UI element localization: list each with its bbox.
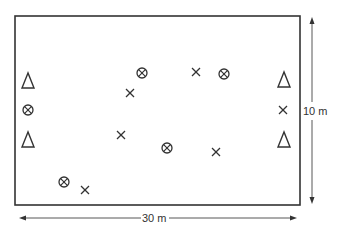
field-diagram: 10 m 30 m	[0, 0, 339, 234]
width-dimension: 30 m	[19, 212, 297, 224]
cross-icon	[126, 89, 134, 97]
playing-field	[15, 16, 300, 205]
circled-cross-icon	[162, 143, 172, 153]
cross-icon	[117, 131, 125, 139]
cross-icon	[81, 186, 89, 194]
arrowhead-down-icon	[310, 197, 315, 204]
cross-icon	[279, 106, 287, 114]
arrowhead-up-icon	[310, 17, 315, 24]
height-label: 10 m	[303, 105, 327, 117]
width-label: 30 m	[142, 212, 166, 224]
cone-triangle-icon	[22, 73, 34, 88]
cone-triangle-icon	[278, 72, 290, 87]
cross-icon	[192, 68, 200, 76]
markers	[22, 68, 290, 194]
arrowhead-left-icon	[19, 216, 26, 221]
circled-cross-icon	[137, 68, 147, 78]
cone-triangle-icon	[278, 132, 290, 147]
cross-icon	[212, 148, 220, 156]
cone-triangle-icon	[22, 132, 34, 147]
circled-cross-icon	[219, 69, 229, 79]
height-dimension: 10 m	[303, 17, 327, 204]
arrowhead-right-icon	[290, 216, 297, 221]
circled-cross-icon	[59, 177, 69, 187]
circled-cross-icon	[23, 105, 33, 115]
